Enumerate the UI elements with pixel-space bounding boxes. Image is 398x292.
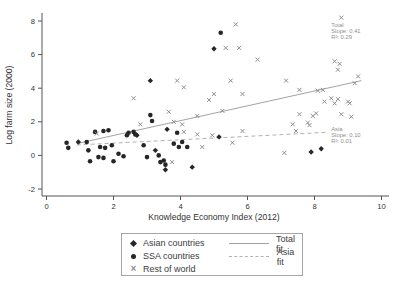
annotation-line: Slope: 0.10 bbox=[331, 132, 360, 138]
circle-point bbox=[218, 30, 223, 35]
circle-point bbox=[145, 155, 150, 160]
circle-point bbox=[106, 128, 111, 133]
farm-size-vs-kei-chart: 0246810-202468 TotalSlope: 0.41R²: 0.29A… bbox=[0, 0, 398, 292]
x-point bbox=[210, 133, 214, 137]
circle-point bbox=[111, 159, 116, 164]
diamond-point bbox=[216, 134, 221, 139]
y-tick-label: 6 bbox=[31, 50, 35, 59]
x-point bbox=[132, 96, 136, 100]
x-point bbox=[333, 101, 337, 105]
circle-point bbox=[98, 145, 103, 150]
diamond-point bbox=[76, 139, 81, 144]
legend-line-column: Total fit Asia fit bbox=[229, 237, 302, 275]
x-tick-label: 8 bbox=[312, 202, 316, 211]
x-point bbox=[282, 151, 286, 155]
legend-box: Asian countries SSA countries Rest of wo… bbox=[121, 233, 303, 276]
circle-point bbox=[133, 132, 138, 137]
legend-label: Asian countries bbox=[140, 238, 205, 248]
circle-point bbox=[64, 141, 69, 146]
diamond-point bbox=[153, 148, 158, 153]
x-point bbox=[224, 46, 228, 50]
x-point bbox=[167, 110, 171, 114]
annotation-line: Total bbox=[331, 22, 343, 28]
legend-item-ssa: SSA countries bbox=[127, 250, 229, 263]
x-point bbox=[284, 79, 288, 83]
circle-point bbox=[158, 160, 163, 165]
x-point bbox=[329, 96, 333, 100]
x-point bbox=[336, 97, 340, 101]
x-point bbox=[229, 79, 233, 83]
circle-point bbox=[180, 140, 185, 145]
circle-point bbox=[150, 119, 155, 124]
annotation-line: Slope: 0.41 bbox=[331, 28, 360, 34]
x-tick-label: 4 bbox=[178, 202, 182, 211]
diamond-point bbox=[148, 78, 153, 83]
circle-point bbox=[121, 154, 126, 159]
x-point bbox=[234, 22, 238, 26]
x-point bbox=[356, 74, 360, 78]
circle-point bbox=[116, 151, 121, 156]
legend-marker-column: Asian countries SSA countries Rest of wo… bbox=[127, 237, 229, 275]
annotations: TotalSlope: 0.41R²: 0.29AsiaSlope: 0.10R… bbox=[331, 22, 360, 144]
x-axis-label: Knowledge Economy Index (2012) bbox=[148, 212, 280, 222]
asia-fit-line bbox=[77, 132, 327, 145]
y-axis-label: Log farm size (2000) bbox=[4, 65, 14, 144]
x-point bbox=[349, 115, 353, 119]
diamond-marker-icon bbox=[130, 240, 137, 247]
circle-point bbox=[177, 145, 182, 150]
x-point bbox=[314, 111, 318, 115]
scatter-points bbox=[64, 16, 360, 173]
x-point bbox=[291, 122, 295, 126]
x-point bbox=[323, 100, 327, 104]
x-point bbox=[175, 79, 179, 83]
y-tick-label: 4 bbox=[31, 84, 35, 93]
circle-point bbox=[126, 130, 131, 135]
circle-point bbox=[101, 156, 106, 161]
circle-point bbox=[88, 159, 93, 164]
x-point bbox=[333, 59, 337, 63]
circle-point bbox=[86, 148, 91, 153]
legend-item-asia-fit: Asia fit bbox=[229, 250, 302, 263]
x-marker-icon bbox=[131, 266, 137, 272]
x-tick-label: 6 bbox=[245, 202, 249, 211]
diamond-point bbox=[190, 164, 195, 169]
circle-point bbox=[110, 143, 115, 148]
axes: 0246810-202468 bbox=[28, 13, 389, 211]
diamond-point bbox=[163, 167, 168, 172]
x-point bbox=[338, 62, 342, 66]
x-point bbox=[182, 130, 186, 134]
solid-line-icon bbox=[229, 243, 269, 244]
annotation-line: R²: 0.01 bbox=[331, 138, 352, 144]
x-point bbox=[182, 85, 186, 89]
diamond-point bbox=[211, 46, 216, 51]
x-point bbox=[237, 46, 241, 50]
x-point bbox=[230, 141, 234, 145]
series-asian-countries bbox=[76, 46, 324, 172]
legend-item-rest: Rest of world bbox=[127, 262, 229, 275]
x-point bbox=[200, 145, 204, 149]
circle-point bbox=[101, 129, 106, 134]
x-point bbox=[294, 129, 298, 133]
circle-point bbox=[66, 146, 71, 151]
x-point bbox=[336, 68, 340, 72]
annotation-total-stats: TotalSlope: 0.41R²: 0.29 bbox=[331, 22, 360, 41]
circle-point bbox=[84, 140, 89, 145]
circle-point bbox=[185, 145, 190, 150]
series-ssa-countries bbox=[64, 30, 223, 166]
circle-point bbox=[141, 143, 146, 148]
circle-point bbox=[175, 130, 180, 135]
circle-point bbox=[156, 153, 161, 158]
circle-point bbox=[163, 162, 168, 167]
plot-area: 0246810-202468 TotalSlope: 0.41R²: 0.29A… bbox=[0, 0, 398, 230]
annotation-asia-stats: AsiaSlope: 0.10R²: 0.01 bbox=[331, 126, 360, 145]
circle-point bbox=[103, 146, 108, 151]
annotation-line: R²: 0.29 bbox=[331, 34, 352, 40]
circle-point bbox=[96, 155, 101, 160]
x-point bbox=[311, 114, 315, 118]
x-point bbox=[180, 122, 184, 126]
x-point bbox=[339, 16, 343, 20]
y-tick-label: 0 bbox=[31, 151, 35, 160]
x-point bbox=[240, 92, 244, 96]
x-point bbox=[240, 129, 244, 133]
x-point bbox=[195, 132, 199, 136]
